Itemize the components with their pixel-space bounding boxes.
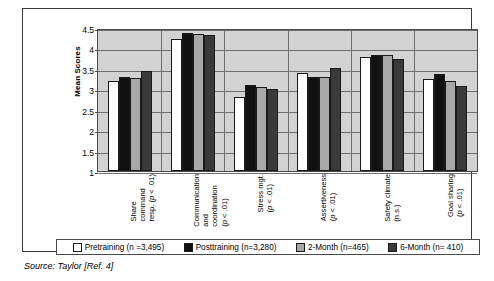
x-axis-label-line: (n.s.): [392, 174, 401, 222]
y-axis-tick-label: 2: [89, 127, 94, 137]
x-axis-label-line: Stress mgt.: [256, 174, 265, 212]
legend-item-label: 6-Month (n= 410): [400, 243, 463, 252]
bar[interactable]: [445, 81, 456, 171]
bar[interactable]: [456, 86, 467, 171]
x-axis-label-line: (p < .01): [328, 174, 337, 221]
x-axis-label: Assertiveness(p < .01): [319, 174, 337, 221]
bar[interactable]: [434, 74, 445, 171]
x-axis-label-cell: Communicationandcoordination(p < .01): [161, 174, 225, 242]
plot-area: 11.522.533.544.5: [97, 29, 478, 172]
legend-swatch-icon: [184, 243, 193, 252]
y-axis-tick-label: 3: [89, 86, 94, 96]
x-axis-label-line: Assertiveness: [319, 174, 328, 221]
legend-item[interactable]: 2-Month (n=465): [296, 243, 369, 252]
x-axis-label-line: resp. (p < .01): [147, 174, 156, 222]
x-axis-label: Goal sharing(p < .01): [446, 174, 464, 217]
x-axis-label-line: coordination: [211, 174, 220, 227]
bar[interactable]: [119, 77, 130, 171]
bar[interactable]: [297, 73, 308, 171]
x-axis-label-cell: Goal sharing(p < .01): [415, 174, 479, 242]
x-axis-label: Stress mgt.(p < .01): [256, 174, 274, 212]
bar[interactable]: [130, 78, 141, 171]
bar[interactable]: [245, 85, 256, 171]
x-axis-label-line: Communication: [192, 174, 201, 227]
legend-item[interactable]: Posttraining (n=3,280): [184, 243, 277, 252]
legend-item[interactable]: 6-Month (n= 410): [388, 243, 463, 252]
legend-swatch-icon: [296, 243, 305, 252]
bar-group: [288, 30, 351, 171]
x-axis-label-line: (p < .01): [455, 174, 464, 217]
bar[interactable]: [371, 55, 382, 171]
y-axis-title: Mean Scores: [73, 12, 82, 132]
y-axis-tick-label: 3.5: [82, 66, 94, 76]
bar[interactable]: [256, 87, 267, 171]
legend-item[interactable]: Pretraining (n =3,495): [73, 243, 164, 252]
x-axis-label-line: Goal sharing: [446, 174, 455, 217]
x-axis-label-line: command: [138, 174, 147, 222]
legend-item-label: Pretraining (n =3,495): [85, 243, 164, 252]
bar[interactable]: [141, 71, 152, 171]
bar[interactable]: [360, 57, 371, 171]
bar[interactable]: [234, 97, 245, 171]
y-axis-tick-label: 4.5: [82, 25, 94, 35]
bar-group: [161, 30, 224, 171]
bar-group: [224, 30, 287, 171]
bar[interactable]: [204, 35, 215, 171]
bar[interactable]: [171, 39, 182, 171]
bar[interactable]: [108, 81, 119, 171]
bar[interactable]: [393, 59, 404, 171]
legend-item-label: Posttraining (n=3,280): [196, 243, 277, 252]
bar[interactable]: [308, 77, 319, 171]
bar[interactable]: [382, 55, 393, 171]
chart-legend: Pretraining (n =3,495)Posttraining (n=3,…: [56, 239, 480, 255]
legend-item-label: 2-Month (n=465): [308, 243, 369, 252]
y-axis-tick-label: 2.5: [82, 107, 94, 117]
x-axis-label-cell: Assertiveness(p < .01): [288, 174, 352, 242]
bar[interactable]: [193, 34, 204, 171]
x-axis-label: Sharecommandresp. (p < .01): [129, 174, 157, 222]
bar[interactable]: [267, 89, 278, 171]
figure: Mean Scores 11.522.533.544.5 Sharecomman…: [0, 0, 494, 281]
legend-swatch-icon: [73, 243, 82, 252]
source-caption: Source: Taylor [Ref. 4]: [24, 261, 113, 271]
x-axis-label: Safety climate(n.s.): [383, 174, 401, 222]
x-axis-label-line: and: [201, 174, 210, 227]
y-axis-tick-label: 1: [89, 168, 94, 178]
bar[interactable]: [319, 77, 330, 171]
bar-group: [414, 30, 477, 171]
bar-group: [351, 30, 414, 171]
y-axis-tick-label: 1.5: [82, 148, 94, 158]
x-axis-label-cell: Safety climate(n.s.): [351, 174, 415, 242]
x-axis-label-line: Safety climate: [383, 174, 392, 222]
bar-group: [98, 30, 161, 171]
x-axis-label-line: Share: [129, 174, 138, 222]
bar[interactable]: [423, 79, 434, 171]
legend-swatch-icon: [388, 243, 397, 252]
x-axis-label-line: (p < .01): [265, 174, 274, 212]
x-axis-label-cell: Sharecommandresp. (p < .01): [97, 174, 161, 242]
bar-groups: [98, 30, 477, 171]
bar[interactable]: [182, 33, 193, 171]
y-axis-tick-label: 4: [89, 45, 94, 55]
x-axis-labels: Sharecommandresp. (p < .01)Communication…: [97, 174, 478, 242]
x-axis-label-cell: Stress mgt.(p < .01): [224, 174, 288, 242]
bar[interactable]: [330, 68, 341, 171]
chart-frame: Mean Scores 11.522.533.544.5 Sharecomman…: [22, 8, 472, 252]
